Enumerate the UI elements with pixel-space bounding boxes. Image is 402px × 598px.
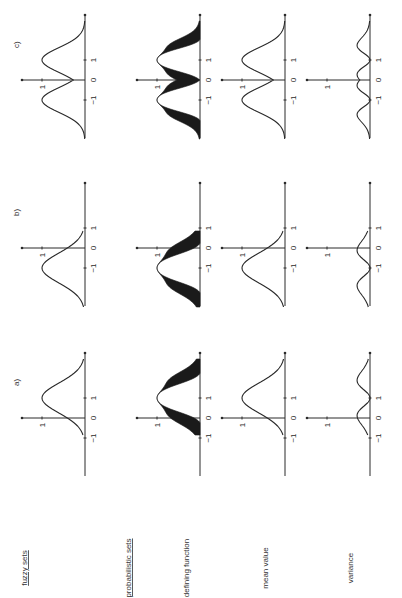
y-axis-arrow-icon: [306, 79, 309, 82]
tick-label-zero: 0: [289, 245, 298, 250]
mean-curve: [242, 231, 284, 307]
tick-label-minus-one: −1: [289, 433, 298, 443]
variance-curve: [357, 359, 370, 435]
panel-b-row3: −1011: [306, 182, 383, 307]
tick-label-y-one: 1: [38, 84, 47, 89]
tick-label-y-one: 1: [238, 422, 247, 427]
membership-curve: [42, 359, 84, 435]
tick-label-minus-one: −1: [374, 95, 383, 105]
tick-label-minus-one: −1: [204, 433, 213, 443]
tick-label-zero: 0: [374, 77, 383, 82]
x-axis-arrow-icon: [199, 14, 202, 17]
tick-label-zero: 0: [204, 77, 213, 82]
mean-curve: [242, 359, 284, 435]
tick-label-y-one: 1: [153, 422, 162, 427]
y-axis-arrow-icon: [21, 79, 24, 82]
y-axis-arrow-icon: [136, 417, 139, 420]
tick-label-one: 1: [374, 57, 383, 62]
tick-label-one: 1: [204, 225, 213, 230]
membership-curve: [42, 231, 84, 307]
plot-panels: −1011−1011−1011−1011a)−1011−1011−1011−10…: [12, 14, 383, 476]
tick-label-zero: 0: [89, 77, 98, 82]
tick-label-y-one: 1: [153, 84, 162, 89]
tick-label-minus-one: −1: [204, 95, 213, 105]
tick-label-minus-one: −1: [89, 263, 98, 273]
tick-label-zero: 0: [204, 245, 213, 250]
row-label-prob: probabilistic sets: [124, 538, 133, 597]
tick-label-one: 1: [289, 395, 298, 400]
panel-c-row3: −1011: [306, 14, 383, 139]
x-axis-arrow-icon: [284, 182, 287, 185]
tick-label-zero: 0: [89, 245, 98, 250]
row-label-defining: defining function: [182, 539, 191, 597]
y-axis-arrow-icon: [21, 417, 24, 420]
y-axis-arrow-icon: [21, 247, 24, 250]
x-axis-arrow-icon: [199, 352, 202, 355]
panel-a-row1: −1011: [136, 352, 213, 476]
tick-label-zero: 0: [289, 415, 298, 420]
y-axis-arrow-icon: [221, 79, 224, 82]
x-axis-arrow-icon: [199, 182, 202, 185]
tick-label-minus-one: −1: [89, 95, 98, 105]
tick-label-y-one: 1: [323, 422, 332, 427]
tick-label-zero: 0: [289, 77, 298, 82]
tick-label-y-one: 1: [38, 252, 47, 257]
tick-label-y-one: 1: [323, 84, 332, 89]
y-axis-arrow-icon: [221, 417, 224, 420]
tick-label-y-one: 1: [238, 84, 247, 89]
panel-c-row2: −1011: [221, 14, 298, 139]
tick-label-zero: 0: [204, 415, 213, 420]
x-axis-arrow-icon: [369, 182, 372, 185]
y-axis-arrow-icon: [136, 79, 139, 82]
tick-label-zero: 0: [374, 245, 383, 250]
tick-label-one: 1: [289, 57, 298, 62]
tick-label-minus-one: −1: [289, 263, 298, 273]
figure-stage: fuzzy setsprobabilistic setsdefining fun…: [0, 0, 402, 598]
variance-curve: [357, 231, 370, 307]
tick-label-y-one: 1: [238, 252, 247, 257]
x-axis-arrow-icon: [369, 14, 372, 17]
x-axis-arrow-icon: [84, 352, 87, 355]
tick-label-one: 1: [204, 395, 213, 400]
tick-label-one: 1: [89, 225, 98, 230]
panel-a-row3: −1011: [306, 352, 383, 476]
tick-label-y-one: 1: [38, 422, 47, 427]
tick-label-minus-one: −1: [374, 433, 383, 443]
y-axis-arrow-icon: [221, 247, 224, 250]
row-label-variance: variance: [346, 552, 355, 583]
y-axis-arrow-icon: [306, 417, 309, 420]
row-label-mean: mean value: [261, 547, 270, 589]
tick-label-one: 1: [374, 395, 383, 400]
tick-label-minus-one: −1: [289, 95, 298, 105]
panel-a-row2: −1011: [221, 352, 298, 476]
x-axis-arrow-icon: [284, 14, 287, 17]
x-axis-arrow-icon: [369, 352, 372, 355]
y-axis-arrow-icon: [136, 247, 139, 250]
tick-label-minus-one: −1: [204, 263, 213, 273]
panel-c-row0: −1011: [21, 14, 98, 139]
tick-label-one: 1: [89, 395, 98, 400]
row-label-fuzzy: fuzzy sets: [20, 550, 29, 586]
panel-b-row1: −1011: [136, 182, 213, 307]
panel-c-row1: −1011: [136, 14, 213, 139]
tick-label-y-one: 1: [153, 252, 162, 257]
tick-label-one: 1: [289, 225, 298, 230]
row-labels: fuzzy setsprobabilistic setsdefining fun…: [20, 538, 355, 597]
column-label-a: a): [12, 379, 21, 386]
y-axis-arrow-icon: [306, 247, 309, 250]
tick-label-one: 1: [204, 57, 213, 62]
panel-b-row0: −1011: [21, 182, 98, 307]
tick-label-zero: 0: [374, 415, 383, 420]
panel-b-row2: −1011: [221, 182, 298, 307]
defining-function-band: [157, 359, 200, 435]
column-label-b: b): [12, 209, 21, 216]
column-label-c: c): [12, 41, 21, 48]
figure-canvas: fuzzy setsprobabilistic setsdefining fun…: [0, 0, 402, 598]
defining-function-band: [157, 231, 200, 307]
x-axis-arrow-icon: [84, 14, 87, 17]
tick-label-zero: 0: [89, 415, 98, 420]
tick-label-one: 1: [374, 225, 383, 230]
tick-label-minus-one: −1: [89, 433, 98, 443]
tick-label-y-one: 1: [323, 252, 332, 257]
tick-label-one: 1: [89, 57, 98, 62]
